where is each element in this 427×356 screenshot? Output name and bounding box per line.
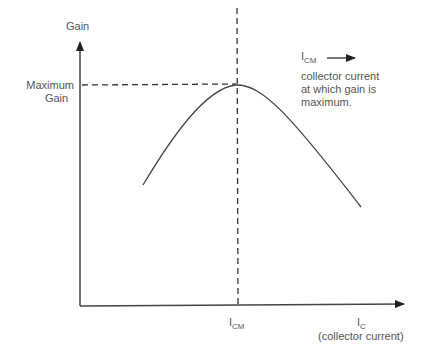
- icm-dashed-line: [237, 8, 238, 304]
- max-gain-dashed-line: [82, 84, 236, 85]
- legend-description: collector current at which gain is maxim…: [301, 70, 379, 109]
- max-gain-label: Maximum Gain: [25, 79, 74, 105]
- legend-symbol: ICM: [301, 50, 317, 67]
- y-axis-label: Gain: [66, 20, 89, 33]
- x-axis: [80, 304, 404, 306]
- gain-curve-diagram: [0, 0, 427, 356]
- x-axis-description: (collector current): [318, 330, 404, 343]
- icm-tick-label: ICM: [229, 316, 245, 333]
